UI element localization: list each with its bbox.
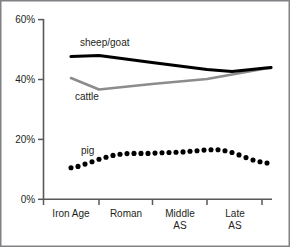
x-tick-label-middle-as: Middle AS — [150, 208, 210, 232]
series-label-sheep-goat: sheep/goat — [80, 37, 130, 48]
y-tick-label-0: 0% — [8, 194, 35, 205]
y-tick-label-60: 60% — [8, 14, 35, 25]
x-axis-ticks — [44, 199, 263, 205]
series-label-pig: pig — [81, 145, 94, 156]
y-axis-ticks — [38, 20, 44, 200]
series-dots-pig — [68, 147, 269, 170]
chart-container: 60% 40% 20% 0% Iron Age Roman Middle AS … — [0, 0, 290, 247]
y-tick-label-40: 40% — [8, 74, 35, 85]
x-tick-label-roman: Roman — [96, 208, 156, 220]
series-label-cattle: cattle — [75, 91, 99, 102]
y-tick-label-20: 20% — [8, 134, 35, 145]
x-tick-label-iron-age: Iron Age — [41, 208, 101, 220]
x-tick-label-late-as: Late AS — [205, 208, 265, 232]
series-line-sheep-goat — [71, 56, 271, 72]
